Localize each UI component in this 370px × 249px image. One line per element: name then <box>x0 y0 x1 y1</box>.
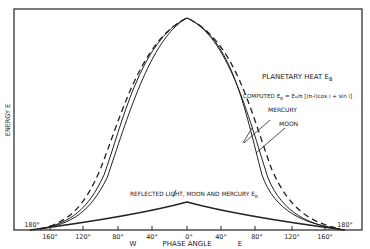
tick-label: 80° <box>251 233 263 241</box>
planetary-heat-label: PLANETARY HEAT EB <box>262 73 333 82</box>
end-label-right: 180° <box>337 221 353 229</box>
west-label: W <box>130 240 137 248</box>
tick-label: 120° <box>75 233 91 241</box>
tick-label: 120° <box>284 233 300 241</box>
tick-label: 160° <box>317 233 333 241</box>
y-axis-label: ENERGY E <box>4 104 12 136</box>
tick-label: 40° <box>215 233 227 241</box>
x-axis-label: PHASE ANGLE <box>162 240 211 248</box>
computed-formula-label: COMPUTED EB= E₀/π [(π-i)cos i + sin i] <box>243 93 352 101</box>
moon-label: MOON <box>279 120 298 127</box>
tick-label: 160° <box>42 233 58 241</box>
tick-label: 40° <box>146 233 158 241</box>
chart: 160° 120° 80° 40° 0° 40° 80° 120° 160° 1… <box>0 0 370 249</box>
end-label-left: 180° <box>24 221 40 229</box>
east-label: E <box>238 240 242 248</box>
x-ticks <box>50 226 325 230</box>
tick-label: 80° <box>112 233 124 241</box>
reflected-label: REFLECTED LIGHT, MOON AND MERCURY ER <box>130 191 258 199</box>
mercury-label: MERCURY <box>268 106 297 113</box>
